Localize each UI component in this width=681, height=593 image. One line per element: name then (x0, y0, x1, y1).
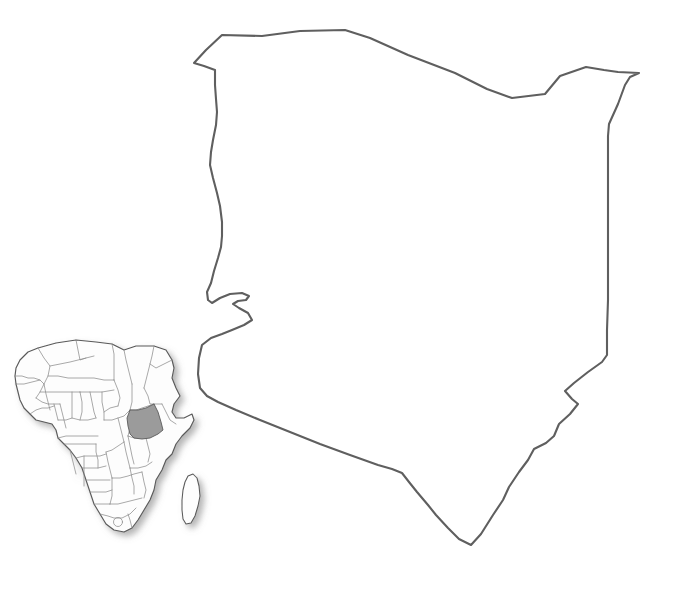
africa-continent-path (15, 340, 194, 532)
africa-inset-svg (14, 334, 214, 544)
africa-landmass-group (15, 340, 200, 532)
kenya-boundary-path (194, 30, 639, 545)
madagascar-island (182, 474, 200, 524)
map-canvas: Kenya (0, 0, 681, 593)
